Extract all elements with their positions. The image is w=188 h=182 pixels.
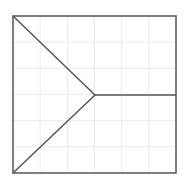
diagram-canvas — [0, 0, 188, 182]
diagonal-top-left-to-center — [13, 16, 95, 95]
diagonal-bottom-left-to-center — [13, 95, 95, 173]
